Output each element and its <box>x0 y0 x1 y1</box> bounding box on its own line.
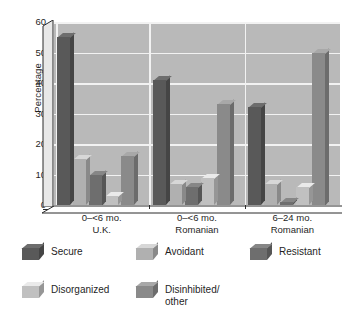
legend-label: Disorganized <box>51 284 109 296</box>
y-axis-tick-mark <box>43 87 48 88</box>
y-axis-tick-mark <box>43 26 48 27</box>
legend-color-swatch <box>136 286 153 298</box>
bar-side-face <box>325 48 329 205</box>
bar <box>185 187 198 205</box>
gridline-horizontal <box>54 53 340 55</box>
bar-front-face <box>89 175 102 206</box>
legend-label: Secure <box>51 246 83 258</box>
x-axis-tick-mark <box>245 205 246 209</box>
bar-front-face <box>57 37 70 205</box>
y-axis-tick-label: 60 <box>6 17 46 27</box>
gridline-horizontal <box>54 83 340 85</box>
x-axis-group-label: 6–24 mo.Romanian <box>245 212 340 235</box>
bar <box>248 107 261 205</box>
legend-color-swatch <box>22 286 39 298</box>
legend-item: Resistant <box>250 246 321 260</box>
y-axis-ticks: 0102030405060 <box>0 0 46 238</box>
bar-front-face <box>121 156 134 205</box>
x-axis-group-label-line1: 6–24 mo. <box>273 212 313 223</box>
legend-item: Disorganized <box>22 284 109 298</box>
x-axis-labels: 0–<6 mo.U.K.0–<6 mo.Romanian6–24 mo.Roma… <box>0 212 359 240</box>
x-axis-group-label-line1: 0–<6 mo. <box>82 212 122 223</box>
legend-swatch-face <box>136 286 153 298</box>
bar-side-face <box>134 151 138 205</box>
bar-side-face <box>261 103 265 205</box>
bar <box>296 187 309 205</box>
bar <box>105 196 118 205</box>
bar <box>73 159 86 205</box>
gridline-vertical <box>149 22 151 205</box>
x-axis-group-label: 0–<6 mo.Romanian <box>149 212 244 235</box>
gridline-horizontal <box>54 144 340 146</box>
plot-canvas <box>54 22 340 205</box>
bar <box>121 156 134 205</box>
legend-color-swatch <box>22 248 39 260</box>
legend-swatch-face <box>22 248 39 260</box>
bar-side-face <box>86 154 90 205</box>
y-axis-tick-label: 20 <box>6 139 46 149</box>
bar-front-face <box>248 107 261 205</box>
y-axis-tick-mark <box>43 57 48 58</box>
x-axis-group-label-line2: Romanian <box>149 224 244 236</box>
bar-front-face <box>105 196 118 205</box>
bar <box>217 104 230 205</box>
y-axis-tick-label: 10 <box>6 170 46 180</box>
y-axis-tick-mark <box>43 118 48 119</box>
bar-side-face <box>166 75 170 205</box>
y-axis-tick-label: 30 <box>6 109 46 119</box>
bar <box>169 184 182 205</box>
y-axis-tick-mark <box>43 179 48 180</box>
chart-legend: SecureAvoidantResistantDisorganizedDisin… <box>0 242 359 318</box>
legend-label: Resistant <box>279 246 321 258</box>
bar-front-face <box>201 178 214 205</box>
gridline-horizontal <box>54 22 340 24</box>
y-axis-tick-label: 50 <box>6 48 46 58</box>
legend-swatch-face <box>22 286 39 298</box>
bar-front-face <box>217 104 230 205</box>
bar <box>89 175 102 206</box>
bar-front-face <box>169 184 182 205</box>
x-axis-group-label-line2: Romanian <box>245 224 340 236</box>
legend-swatch-face <box>136 248 153 260</box>
bar-front-face <box>280 202 293 205</box>
gridline-vertical <box>245 22 247 205</box>
bar-front-face <box>264 184 277 205</box>
legend-label: Avoidant <box>165 246 204 258</box>
x-axis-group-label-line2: U.K. <box>54 224 149 236</box>
bar <box>153 80 166 205</box>
x-axis-group-label-line1: 0–<6 mo. <box>177 212 217 223</box>
legend-color-swatch <box>136 248 153 260</box>
bar <box>57 37 70 205</box>
legend-item: Avoidant <box>136 246 204 260</box>
x-axis-group-label: 0–<6 mo.U.K. <box>54 212 149 235</box>
legend-swatch-face <box>250 248 267 260</box>
legend-label: Disinhibited/ other <box>165 284 219 307</box>
y-axis-tick-label: 40 <box>6 78 46 88</box>
bar <box>201 178 214 205</box>
x-axis-tick-mark <box>149 205 150 209</box>
chart-plot-area: Percentage 0102030405060 0–<6 mo.U.K.0–<… <box>0 0 359 238</box>
gridline-horizontal <box>54 114 340 116</box>
bar <box>264 184 277 205</box>
bar-front-face <box>73 159 86 205</box>
bar-chart-figure: Percentage 0102030405060 0–<6 mo.U.K.0–<… <box>0 0 359 318</box>
bar-side-face <box>70 32 74 205</box>
y-axis-tick-label: 0 <box>6 200 46 210</box>
bar-front-face <box>153 80 166 205</box>
y-axis-tick-mark <box>43 148 48 149</box>
bar <box>280 202 293 205</box>
bar-front-face <box>296 187 309 205</box>
legend-color-swatch <box>250 248 267 260</box>
legend-item: Disinhibited/ other <box>136 284 219 307</box>
bar-front-face <box>185 187 198 205</box>
legend-item: Secure <box>22 246 83 260</box>
bar-side-face <box>230 100 234 205</box>
